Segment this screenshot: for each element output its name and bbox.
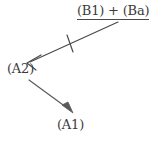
node-label-a1: (A1)	[57, 118, 84, 131]
node-label-a2: (A2)	[7, 62, 34, 75]
arrow-shaft	[30, 22, 118, 62]
arrow-a2-to-a1	[29, 80, 73, 113]
diagram-canvas: (B1) + (Ba) (A2) (A1)	[0, 0, 152, 141]
arrow-top-to-a2	[27, 22, 118, 70]
arrowhead-solid	[62, 102, 73, 113]
node-label-top: (B1) + (Ba)	[77, 4, 149, 20]
